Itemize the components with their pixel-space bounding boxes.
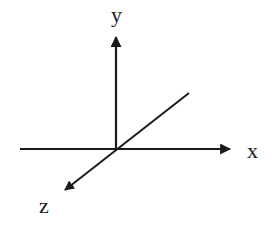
y-axis-label: y: [111, 4, 122, 26]
x-axis-label: x: [247, 140, 258, 162]
z-axis-line: [65, 93, 189, 190]
z-axis-label: z: [39, 195, 49, 217]
